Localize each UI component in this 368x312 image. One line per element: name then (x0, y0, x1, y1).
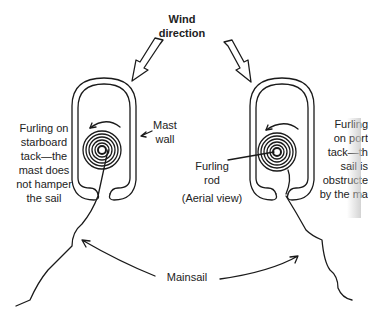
caption-line: Furling on (14, 121, 74, 135)
mainsail-right (286, 196, 352, 300)
page-edge-shadow (347, 118, 361, 218)
mainsail-label: Mainsail (160, 270, 214, 284)
wind-label-line: Wind (150, 12, 214, 26)
mainsail-arrow-right (220, 256, 298, 279)
caption-line: starboard (14, 135, 74, 149)
aerial-view-label: (Aerial view) (176, 191, 248, 205)
mast-wall-label: Mast wall (148, 118, 182, 146)
mast-label-line: Mast (148, 118, 182, 132)
wind-direction-label: Wind direction (150, 12, 214, 40)
furled-sail-right (258, 133, 296, 171)
caption-line: not hamper (14, 177, 74, 191)
caption-line: the sail (14, 191, 74, 205)
rod-label-line: Furling (190, 159, 234, 173)
wind-arrow-left (132, 38, 163, 81)
mast-section-left (72, 78, 152, 200)
wind-label-line: direction (150, 26, 214, 40)
starboard-caption: Furling on starboard tack—the mast does … (14, 121, 74, 205)
caption-line: tack—the (14, 149, 74, 163)
caption-line: mast does (14, 163, 74, 177)
mast-label-line: wall (148, 132, 182, 146)
rod-label-line: rod (190, 173, 234, 187)
mast-section-right (228, 78, 314, 200)
wind-arrow-right (224, 40, 251, 82)
furled-sail-left (83, 131, 121, 169)
furling-rod-pointer (228, 152, 274, 160)
mainsail-arrow-left (82, 240, 155, 276)
furling-rod-label: Furling rod (190, 159, 234, 187)
